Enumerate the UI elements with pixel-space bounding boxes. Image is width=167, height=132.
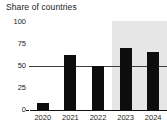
x-tick-label: 2024 [139, 113, 167, 122]
y-tick-label: 0 [2, 106, 26, 114]
bar-2020 [37, 103, 49, 110]
bar-2024 [147, 52, 159, 110]
x-tick-label: 2023 [112, 113, 140, 122]
x-tick-label: 2021 [57, 113, 85, 122]
x-tick-label: 2020 [29, 113, 57, 122]
chart-container: Share of countries 100 75 50 25 0 [0, 0, 167, 132]
bar-2021 [64, 55, 76, 110]
y-tick-label: 25 [2, 84, 26, 92]
plot-area: 100 75 50 25 0 20202021202220232024 [0, 0, 167, 132]
y-tick-label: 50 [2, 62, 26, 70]
x-tick-label: 2022 [84, 113, 112, 122]
y-tick-label: 100 [2, 18, 26, 26]
bar-2022 [92, 66, 104, 110]
y-tick-label: 75 [2, 40, 26, 48]
bar-2023 [120, 48, 132, 110]
x-axis-line [29, 110, 167, 111]
